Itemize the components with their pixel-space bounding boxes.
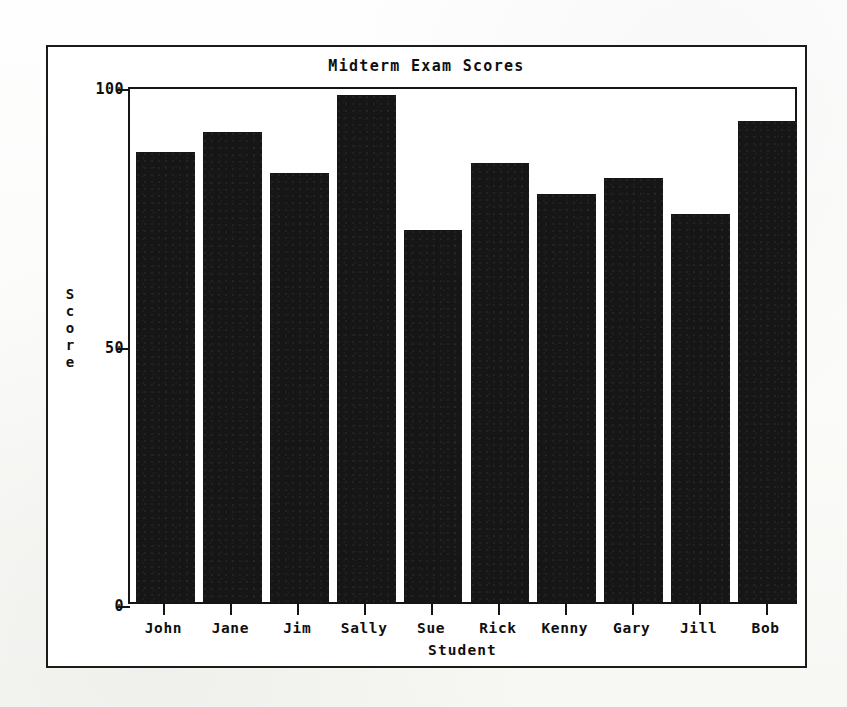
x-axis-tick [699, 602, 701, 615]
bar [671, 214, 730, 602]
x-axis-tick-label: Jane [212, 620, 249, 636]
y-axis-title: S c o r e [62, 286, 78, 371]
y-axis-tick-label: 50 [105, 339, 124, 357]
bar-series [130, 89, 795, 602]
figure-frame: Midterm Exam Scores S c o r e 050100 Joh… [46, 45, 807, 668]
x-axis-tick-label: Sally [341, 620, 388, 636]
x-axis-tick [230, 602, 232, 615]
bar [136, 152, 195, 602]
x-axis-title: Student [128, 642, 797, 658]
plot-area: 050100 JohnJaneJimSallySueRickKennyGaryJ… [128, 87, 797, 604]
y-axis-tick-label: 100 [95, 80, 124, 98]
x-axis-tick [766, 602, 768, 615]
x-axis-tick-label: Jill [680, 620, 717, 636]
x-axis-tick-label: Gary [613, 620, 650, 636]
page-background: Midterm Exam Scores S c o r e 050100 Joh… [0, 0, 847, 707]
x-axis-tick-label: Sue [417, 620, 445, 636]
x-axis-tick-label: Bob [752, 620, 780, 636]
x-axis-tick-label: Kenny [542, 620, 589, 636]
y-axis-title-letter: c [62, 303, 78, 320]
bar [471, 163, 530, 602]
x-axis-tick [297, 602, 299, 615]
x-axis-tick [364, 602, 366, 615]
y-axis-title-letter: r [62, 337, 78, 354]
bar [337, 95, 396, 602]
y-axis-title-letter: S [62, 286, 78, 303]
x-axis-tick [565, 602, 567, 615]
bar [404, 230, 463, 602]
x-axis-tick-label: Rick [479, 620, 516, 636]
x-axis-tick [498, 602, 500, 615]
bar [738, 121, 797, 602]
x-axis-tick [163, 602, 165, 615]
chart-title: Midterm Exam Scores [48, 57, 805, 75]
bar [203, 132, 262, 602]
bar [270, 173, 329, 602]
x-axis-tick [632, 602, 634, 615]
x-axis-tick-label: John [145, 620, 182, 636]
y-axis-title-letter: e [62, 354, 78, 371]
bar [604, 178, 663, 602]
y-axis-title-letter: o [62, 320, 78, 337]
x-axis-tick [431, 602, 433, 615]
bar [537, 194, 596, 602]
x-axis-tick-label: Jim [283, 620, 311, 636]
y-axis-tick-label: 0 [114, 597, 124, 615]
